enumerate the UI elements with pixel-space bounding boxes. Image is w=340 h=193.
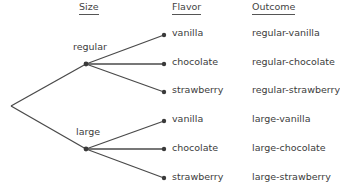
flavor-label: chocolate (172, 56, 218, 68)
flavor-label: vanilla (172, 27, 203, 39)
flavor-branch-regular-strawberry (86, 64, 164, 92)
flavor-label: vanilla (172, 113, 203, 125)
size-branch-regular (11, 64, 86, 106)
size-label-large: large (76, 126, 100, 138)
outcome-label: large-vanilla (252, 113, 310, 125)
outcome-label: large-strawberry (252, 171, 331, 183)
leaf-node-large-chocolate (162, 147, 166, 151)
size-node-large (84, 147, 89, 152)
flavor-label: strawberry (172, 171, 223, 183)
outcome-label: large-chocolate (252, 142, 326, 154)
leaf-node-regular-vanilla (162, 33, 166, 37)
flavor-branch-large-strawberry (86, 149, 164, 178)
outcome-label: regular-chocolate (252, 56, 335, 68)
leaf-node-regular-chocolate (162, 62, 166, 66)
leaf-node-regular-strawberry (162, 90, 166, 94)
size-node-regular (84, 62, 89, 67)
flavor-label: strawberry (172, 84, 223, 96)
outcome-label: regular-strawberry (252, 84, 340, 96)
leaf-node-large-vanilla (162, 119, 166, 123)
outcome-label: regular-vanilla (252, 27, 320, 39)
size-label-regular: regular (73, 41, 107, 53)
size-branch-large (11, 106, 86, 149)
flavor-label: chocolate (172, 142, 218, 154)
leaf-node-large-strawberry (162, 176, 166, 180)
